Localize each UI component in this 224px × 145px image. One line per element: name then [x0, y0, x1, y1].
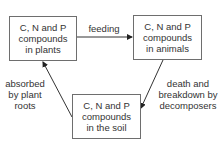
edge-label-absorbed: absorbed by plant roots [3, 78, 47, 111]
node-animals: C, N and P compounds in animals [133, 15, 202, 60]
edge-death-line-3: decomposers [155, 100, 221, 111]
absorbed-arrow [43, 62, 72, 117]
node-animals-line-1: C, N and P [144, 21, 190, 32]
edge-absorbed-line-3: roots [3, 100, 47, 111]
node-soil-line-1: C, N and P [83, 100, 129, 111]
edge-death-line-1: death and [155, 78, 221, 89]
edge-feeding-line-1: feeding [88, 23, 119, 34]
node-soil-line-2: compounds [82, 111, 131, 122]
edge-label-death: death and breakdown by decomposers [155, 78, 221, 111]
node-plants-line-1: C, N and P [20, 22, 66, 33]
node-plants-line-2: compounds [18, 33, 67, 44]
node-plants: C, N and P compounds in plants [9, 16, 77, 61]
node-animals-line-2: compounds [143, 32, 192, 43]
edge-absorbed-line-2: by plant [3, 89, 47, 100]
node-animals-line-3: in animals [146, 43, 189, 54]
node-plants-line-3: in plants [25, 44, 60, 55]
edge-absorbed-line-1: absorbed [3, 78, 47, 89]
node-soil: C, N and P compounds in the soil [72, 94, 141, 139]
edge-label-feeding: feeding [85, 23, 123, 34]
node-soil-line-3: in the soil [86, 122, 126, 133]
edge-death-line-2: breakdown by [155, 89, 221, 100]
